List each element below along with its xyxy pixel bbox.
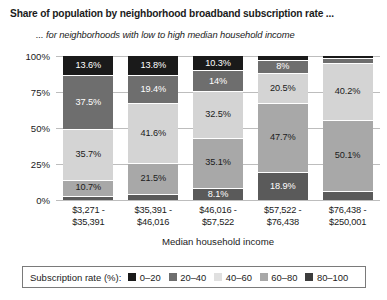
x-axis-tick-line: $57,522 - xyxy=(250,205,315,217)
segment-value-label: 35.1% xyxy=(205,158,231,167)
segment-value-label: 10.3% xyxy=(205,59,231,68)
x-axis-tick-line: $46,016 xyxy=(121,217,186,229)
x-axis-tick-label: $46,016 -$57,522 xyxy=(186,205,251,228)
legend-label: 60–80 xyxy=(271,272,297,283)
bar-column[interactable]: 8%20.5%47.7%18.9% xyxy=(258,56,308,200)
y-axis-tick-label: 25% xyxy=(2,159,50,170)
x-axis-tick-line: $76,438 - xyxy=(315,205,380,217)
bar-segment[interactable]: 37.5% xyxy=(63,75,113,129)
segment-value-label: 32.5% xyxy=(205,110,231,119)
legend-swatch xyxy=(260,273,268,281)
x-axis-tick-label: $3,271 -$35,391 xyxy=(56,205,121,228)
bar-segment[interactable]: 32.5% xyxy=(193,91,243,138)
bar-column[interactable]: 13.6%37.5%35.7%10.7% xyxy=(63,56,113,200)
x-axis-tick-line: $3,271 - xyxy=(56,205,121,217)
chart-title: Share of population by neighborhood broa… xyxy=(10,8,380,19)
legend-item[interactable]: 60–80 xyxy=(260,272,298,283)
bar-segment[interactable] xyxy=(128,194,178,200)
bar-segment[interactable]: 47.7% xyxy=(258,103,308,172)
bar-segment[interactable]: 20.5% xyxy=(258,73,308,103)
segment-value-label: 13.6% xyxy=(76,61,102,70)
y-axis: 0%25%50%75%100% xyxy=(0,56,50,200)
x-axis-title: Median household income xyxy=(56,236,380,247)
bar-segment[interactable]: 41.6% xyxy=(128,103,178,162)
segment-value-label: 8% xyxy=(276,62,289,71)
bar-segment[interactable] xyxy=(323,191,373,200)
bar-segment[interactable] xyxy=(63,196,113,201)
legend-item[interactable]: 80–100 xyxy=(305,272,348,283)
chart-legend: Subscription rate (%): 0–2020–4040–6060–… xyxy=(22,266,366,288)
bar-column[interactable]: 13.8%19.4%41.6%21.5% xyxy=(128,56,178,200)
bar-column[interactable]: 40.2%50.1% xyxy=(323,56,373,200)
legend-label: 0–20 xyxy=(140,272,161,283)
chart-figure: Share of population by neighborhood broa… xyxy=(0,0,387,300)
legend-label: 80–100 xyxy=(317,272,348,283)
bar-segment[interactable]: 40.2% xyxy=(323,63,373,120)
legend-label: 40–60 xyxy=(226,272,252,283)
bar-segment[interactable]: 8% xyxy=(258,60,308,72)
segment-value-label: 20.5% xyxy=(270,84,296,93)
legend-item[interactable]: 20–40 xyxy=(169,272,207,283)
legend-item[interactable]: 0–20 xyxy=(128,272,160,283)
x-axis-tick-line: $57,522 xyxy=(186,217,251,229)
bar-column[interactable]: 10.3%14%32.5%35.1%8.1% xyxy=(193,56,243,200)
legend-swatch xyxy=(214,273,222,281)
x-axis-tick-label: $76,438 -$250,001 xyxy=(315,205,380,228)
segment-value-label: 35.7% xyxy=(76,150,102,159)
segment-value-label: 8.1% xyxy=(208,190,229,199)
segment-value-label: 19.4% xyxy=(140,85,166,94)
legend-swatch xyxy=(305,273,313,281)
bar-segment[interactable]: 35.1% xyxy=(193,138,243,188)
y-axis-tick-label: 0% xyxy=(2,195,50,206)
y-axis-tick-label: 100% xyxy=(2,51,50,62)
legend-title: Subscription rate (%): xyxy=(30,272,121,283)
legend-label: 20–40 xyxy=(180,272,206,283)
x-axis-tick-line: $35,391 xyxy=(56,217,121,229)
segment-value-label: 37.5% xyxy=(76,98,102,107)
segment-value-label: 47.7% xyxy=(270,133,296,142)
y-axis-tick-label: 75% xyxy=(2,87,50,98)
bar-segment[interactable]: 19.4% xyxy=(128,75,178,103)
segment-value-label: 10.7% xyxy=(76,183,102,192)
bar-segment[interactable]: 50.1% xyxy=(323,120,373,191)
bar-segment[interactable]: 18.9% xyxy=(258,172,308,200)
legend-item[interactable]: 40–60 xyxy=(214,272,252,283)
x-axis-tick-line: $46,016 - xyxy=(186,205,251,217)
legend-swatch xyxy=(169,273,177,281)
segment-value-label: 21.5% xyxy=(140,174,166,183)
y-axis-tick-label: 50% xyxy=(2,123,50,134)
bar-segment[interactable]: 10.3% xyxy=(193,56,243,70)
x-axis-tick-line: $76,438 xyxy=(250,217,315,229)
chart-subtitle: ... for neighborhoods with low to high m… xyxy=(36,29,381,40)
segment-value-label: 41.6% xyxy=(140,129,166,138)
segment-value-label: 18.9% xyxy=(270,182,296,191)
bar-segment[interactable]: 10.7% xyxy=(63,180,113,196)
bar-segment[interactable]: 8.1% xyxy=(193,188,243,200)
x-axis-tick-line: $250,001 xyxy=(315,217,380,229)
bar-segment[interactable]: 21.5% xyxy=(128,163,178,194)
x-axis-tick-label: $35,391 -$46,016 xyxy=(121,205,186,228)
segment-value-label: 50.1% xyxy=(335,151,361,160)
bar-segment[interactable]: 35.7% xyxy=(63,129,113,180)
segment-value-label: 13.8% xyxy=(140,61,166,70)
segment-value-label: 40.2% xyxy=(335,87,361,96)
bar-segment[interactable]: 14% xyxy=(193,70,243,91)
legend-swatch xyxy=(128,273,136,281)
bar-segment[interactable]: 13.6% xyxy=(63,56,113,75)
plot-area: 13.6%37.5%35.7%10.7%13.8%19.4%41.6%21.5%… xyxy=(56,56,380,200)
x-axis-tick-label: $57,522 -$76,438 xyxy=(250,205,315,228)
segment-value-label: 14% xyxy=(209,77,227,86)
bar-segment[interactable]: 13.8% xyxy=(128,56,178,75)
x-axis-tick-line: $35,391 - xyxy=(121,205,186,217)
